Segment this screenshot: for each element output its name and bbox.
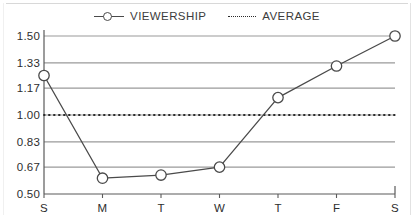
- viewership-line: [44, 36, 395, 178]
- y-tick-label: 0.83: [0, 136, 40, 148]
- plot-area: 1.501.331.171.000.830.670.50 SMTWTFS: [0, 0, 414, 218]
- x-tick-label: F: [327, 202, 347, 214]
- y-tick-label: 1.50: [0, 30, 40, 42]
- data-point-marker[interactable]: [273, 92, 283, 102]
- y-tick-label: 0.50: [0, 188, 40, 200]
- data-point-marker[interactable]: [39, 70, 49, 80]
- x-tick-label: M: [93, 202, 113, 214]
- viewership-chart: VIEWERSHIP AVERAGE 1.501.331.171.000.830…: [0, 0, 414, 218]
- x-tick-label: T: [151, 202, 171, 214]
- data-point-marker[interactable]: [390, 31, 400, 41]
- y-tick-label: 1.17: [0, 82, 40, 94]
- x-tick-label: S: [385, 202, 405, 214]
- x-tick-label: T: [268, 202, 288, 214]
- y-tick-label: 1.00: [0, 109, 40, 121]
- gridlines: [44, 36, 395, 167]
- x-tick-label: S: [34, 202, 54, 214]
- x-tick-label: W: [210, 202, 230, 214]
- x-axis-ticks: [44, 194, 395, 198]
- data-point-marker[interactable]: [156, 170, 166, 180]
- chart-canvas: [0, 0, 414, 218]
- data-point-marker[interactable]: [97, 173, 107, 183]
- data-point-marker[interactable]: [214, 162, 224, 172]
- y-tick-label: 1.33: [0, 57, 40, 69]
- y-tick-label: 0.67: [0, 161, 40, 173]
- data-point-marker[interactable]: [331, 61, 341, 71]
